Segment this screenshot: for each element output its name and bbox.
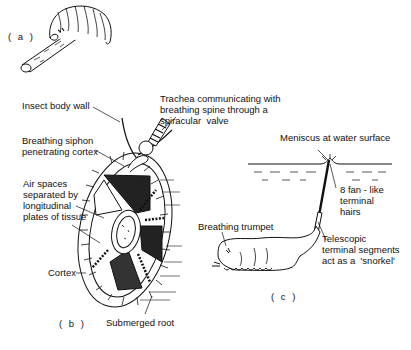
label-breathing-trumpet: Breathing trumpet xyxy=(198,221,274,232)
label-insect-body-wall: Insect body wall xyxy=(22,100,90,111)
label-air-spaces: Air spaces separated by longitudinal pla… xyxy=(23,178,86,222)
label-trachea: Trachea communicating with breathing spi… xyxy=(160,93,281,126)
label-breathing-siphon: Breathing siphon penetrating cortex xyxy=(22,135,98,157)
illustration xyxy=(0,0,411,350)
label-meniscus: Meniscus at water surface xyxy=(280,132,390,143)
panel-label-c: ( c ) xyxy=(271,291,297,302)
label-telescopic-segments: Telescopic terminal segments act as a 's… xyxy=(322,233,400,266)
label-fan-hairs: 8 fan - like terminal hairs xyxy=(340,184,384,217)
label-submerged-root: Submerged root xyxy=(106,317,174,328)
panel-label-a: ( a ) xyxy=(8,31,35,42)
panel-label-b: ( b ) xyxy=(59,318,86,329)
label-cortex: Cortex xyxy=(48,267,76,278)
figure: ( a ) ( b ) ( c ) Insect body wall Trach… xyxy=(0,0,411,350)
